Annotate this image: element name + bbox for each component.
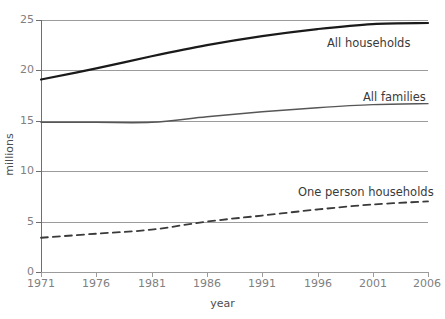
- series-label-all-families: All families: [363, 90, 426, 104]
- series-line-all-families: [41, 104, 428, 123]
- series-label-one-person-households: One person households: [298, 185, 434, 199]
- series-label-all-households: All households: [327, 36, 410, 50]
- series-line-one-person-households: [41, 201, 428, 237]
- series-line-all-households: [41, 23, 428, 79]
- line-chart: 25 20 15 10 5 0 1971 1976 1981 1986 1991…: [0, 0, 445, 319]
